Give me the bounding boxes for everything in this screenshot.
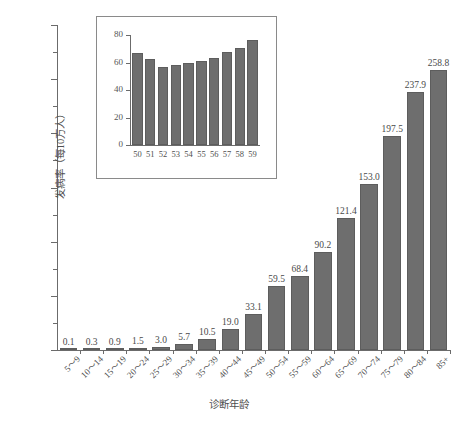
x-tick: [80, 350, 81, 354]
bar: [83, 348, 101, 350]
x-tick: [288, 350, 289, 354]
x-tick: [126, 350, 127, 354]
x-tick: [311, 350, 312, 354]
bar: [314, 252, 332, 350]
x-tick: [242, 350, 243, 354]
inset-bar: [171, 65, 181, 145]
bar: [430, 70, 448, 350]
bar: [407, 92, 425, 350]
chart-figure: 050100150200250300 发病率（每10万人） 0.10.30.91…: [0, 0, 458, 433]
inset-bar: [145, 59, 155, 145]
inset-y-tick: [126, 35, 130, 36]
bar-value-label: 258.8: [422, 58, 454, 68]
x-tick: [334, 350, 335, 354]
inset-x-tick-label: 59: [243, 150, 263, 159]
bar: [337, 218, 355, 350]
bar-value-label: 197.5: [376, 124, 408, 134]
bar-value-label: 121.4: [330, 206, 362, 216]
x-tick: [219, 350, 220, 354]
inset-y-tick: [126, 118, 130, 119]
inset-y-tick: [126, 145, 130, 146]
bar: [175, 344, 193, 350]
x-tick: [450, 350, 451, 354]
inset-x-axis-line: [130, 145, 260, 146]
bar: [60, 348, 78, 350]
inset-bar: [183, 63, 193, 145]
x-tick: [196, 350, 197, 354]
inset-bar: [132, 53, 142, 145]
inset-y-tick-label: 20: [99, 113, 123, 122]
x-axis-line: [57, 350, 451, 351]
x-tick: [358, 350, 359, 354]
bar: [198, 339, 216, 350]
bar-value-label: 33.1: [238, 302, 270, 312]
inset-bar: [247, 40, 257, 145]
inset-y-tick: [126, 90, 130, 91]
inset-y-tick: [126, 63, 130, 64]
inset-y-tick-label: 40: [99, 85, 123, 94]
x-tick: [404, 350, 405, 354]
x-tick: [103, 350, 104, 354]
inset-y-tick-label: 60: [99, 58, 123, 67]
x-tick: [173, 350, 174, 354]
inset-bar: [158, 67, 168, 145]
inset-bar: [209, 58, 219, 145]
inset-plot-area: [131, 35, 259, 145]
x-tick: [427, 350, 428, 354]
bar: [360, 184, 378, 350]
bar-value-label: 59.5: [261, 274, 293, 284]
bar: [291, 276, 309, 350]
bar-value-label: 90.2: [307, 240, 339, 250]
y-tick-major: [51, 350, 57, 351]
bar: [152, 347, 170, 350]
bar: [222, 329, 240, 350]
bar: [245, 314, 263, 350]
bar: [129, 348, 147, 350]
inset-bar: [196, 61, 206, 145]
inset-y-tick-label: 80: [99, 30, 123, 39]
bar-value-label: 19.0: [214, 317, 246, 327]
inset-bar: [235, 48, 245, 145]
bar-value-label: 153.0: [353, 172, 385, 182]
inset-chart: 020406080 50515253545556575859: [96, 16, 277, 179]
bar-value-label: 10.5: [191, 327, 223, 337]
x-axis-title: 诊断年龄: [0, 396, 458, 411]
inset-y-tick-label: 0: [99, 140, 123, 149]
x-tick: [265, 350, 266, 354]
bar: [268, 286, 286, 350]
bar: [106, 348, 124, 350]
bar: [383, 136, 401, 350]
inset-bar: [222, 52, 232, 145]
bar-value-label: 237.9: [399, 80, 431, 90]
x-tick: [149, 350, 150, 354]
bar-value-label: 68.4: [284, 264, 316, 274]
x-tick: [381, 350, 382, 354]
